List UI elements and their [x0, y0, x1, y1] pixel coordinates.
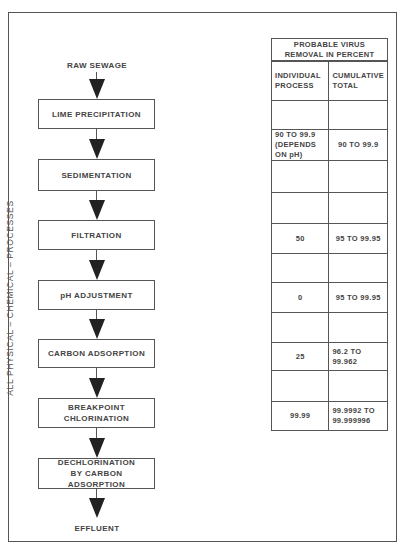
table-row: 5095 TO 99.95 — [272, 224, 388, 254]
input-label: RAW SEWAGE — [38, 61, 156, 70]
table-row — [272, 161, 388, 193]
flow-arrow-icon — [87, 191, 107, 220]
step-ph-adjustment: pH ADJUSTMENT — [38, 280, 155, 310]
virus-removal-table: PROBABLE VIRUS REMOVAL IN PERCENT INDIVI… — [271, 38, 388, 431]
step-sedimentation: SEDIMENTATION — [38, 159, 155, 191]
flow-arrow-icon — [87, 428, 107, 458]
side-label-text: ALL PHYSICAL – CHEMICAL – PROCESSES — [5, 168, 15, 428]
output-label: EFFLUENT — [38, 524, 156, 533]
step-filtration: FILTRATION — [38, 220, 155, 250]
table-row: 2596.2 TO 99.962 — [272, 343, 388, 371]
table-row — [272, 313, 388, 343]
flow-arrow-icon — [87, 368, 107, 398]
flow-arrow-icon — [87, 310, 107, 339]
table-row — [272, 101, 388, 130]
table-row: 90 TO 99.9 (DEPENDS ON pH)90 TO 99.9 — [272, 130, 388, 161]
table-row: 99.9999.9992 TO 99.999996 — [272, 402, 388, 431]
step-carbon-adsorption: CARBON ADSORPTION — [38, 339, 155, 368]
flow-arrow-icon — [87, 72, 107, 99]
table-row: 095 TO 99.95 — [272, 283, 388, 313]
table-row — [272, 254, 388, 283]
step-lime-precipitation: LIME PRECIPITATION — [38, 99, 155, 129]
flow-arrow-icon — [87, 129, 107, 159]
step-dechlorination: DECHLORINATION BY CARBON ADSORPTION — [38, 458, 155, 489]
header-cumulative: CUMULATIVE TOTAL — [329, 61, 388, 101]
header-individual: INDIVIDUAL PROCESS — [272, 61, 329, 101]
step-breakpoint-chlorination: BREAKPOINT CHLORINATION — [38, 398, 155, 428]
table-row — [272, 371, 388, 402]
flow-arrow-icon — [87, 489, 107, 519]
table-title: PROBABLE VIRUS REMOVAL IN PERCENT — [272, 39, 388, 62]
flow-arrow-icon — [87, 250, 107, 280]
table-row — [272, 193, 388, 224]
